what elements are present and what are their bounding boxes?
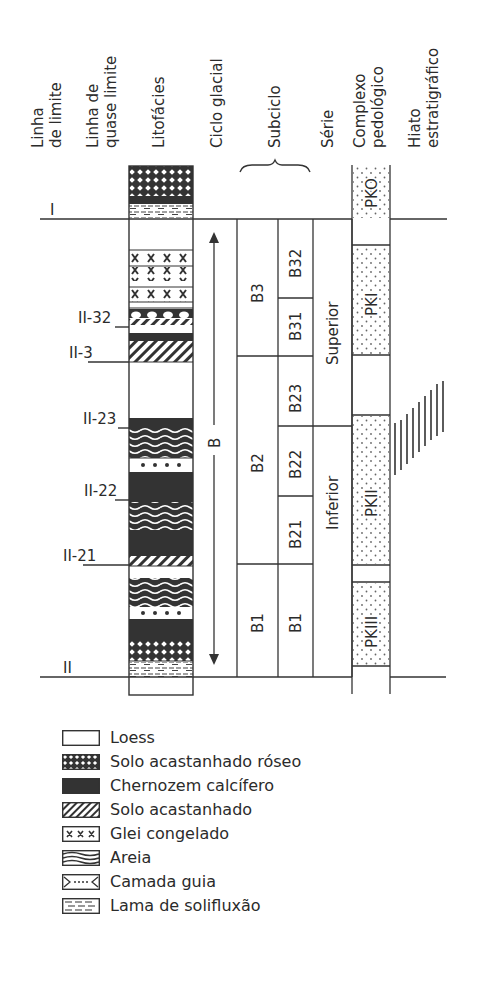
serie-superior: Superior bbox=[324, 301, 342, 365]
legend-item-sand: Areia bbox=[62, 848, 422, 868]
header-linha-quase-1: Linha de bbox=[84, 84, 102, 148]
header-serie: Série bbox=[319, 110, 337, 148]
subciclo-brace-icon bbox=[240, 160, 310, 172]
marker-bed-swatch-icon bbox=[62, 874, 100, 890]
complexo-PKO: PKO bbox=[363, 178, 381, 208]
header-linha-limite-2: de limite bbox=[47, 82, 65, 148]
boundary-label-II-3: II-3 bbox=[69, 344, 93, 362]
subciclo-B22: B22 bbox=[287, 450, 305, 479]
complexo-PKII: PKII bbox=[363, 489, 381, 517]
subciclo-B31: B31 bbox=[287, 312, 305, 341]
boundary-label-II-23: II-23 bbox=[83, 410, 116, 428]
legend-label: Chernozem calcífero bbox=[110, 776, 274, 796]
legend-label: Camada guia bbox=[110, 872, 216, 892]
legend-label: Loess bbox=[110, 728, 155, 748]
legend-label: Solo acastanhado róseo bbox=[110, 752, 301, 772]
legend-label: Glei congelado bbox=[110, 824, 229, 844]
legend-item-pink-brown-soil: Solo acastanhado róseo bbox=[62, 752, 422, 772]
subciclo-B3: B3 bbox=[249, 283, 267, 303]
ciclo-glacial-label: B bbox=[206, 438, 224, 448]
header-hiato-1: Hiato bbox=[406, 108, 424, 148]
loess-swatch-icon bbox=[62, 730, 100, 746]
boundary-labels: I II-32 II-3 II-23 II-22 II-21 II bbox=[50, 201, 117, 677]
header-ciclo-glacial: Ciclo glacial bbox=[208, 58, 226, 148]
subciclo-B32: B32 bbox=[287, 249, 305, 278]
boundary-label-I: I bbox=[50, 201, 54, 219]
header-litofacies: Litofácies bbox=[150, 76, 168, 148]
header-complexo-2: pedológico bbox=[369, 66, 387, 148]
serie-labels: Superior Inferior bbox=[324, 301, 342, 530]
x-marks-swatch-icon bbox=[62, 826, 100, 842]
legend-item-gley: Glei congelado bbox=[62, 824, 422, 844]
diagonal-hatch-swatch-icon bbox=[62, 802, 100, 818]
boundary-label-II-32: II-32 bbox=[78, 309, 111, 327]
legend-label: Areia bbox=[110, 848, 151, 868]
subciclo-B2: B2 bbox=[249, 453, 267, 473]
subciclo-B1: B1 bbox=[249, 613, 267, 633]
legend-item-chernozem: Chernozem calcífero bbox=[62, 776, 422, 796]
stratigraphic-diagram: Linha de limite Linha de quase limite Li… bbox=[0, 0, 487, 720]
header-complexo-1: Complexo bbox=[351, 73, 369, 148]
header-subciclo: Subciclo bbox=[266, 85, 284, 148]
legend-item-solifluction: Lama de solifluxão bbox=[62, 896, 422, 916]
wavy-lines-swatch-icon bbox=[62, 850, 100, 866]
legend-item-brown-soil: Solo acastanhado bbox=[62, 800, 422, 820]
legend-item-marker-bed: Camada guia bbox=[62, 872, 422, 892]
crosshatch-swatch-icon bbox=[62, 754, 100, 770]
litofacies-column bbox=[129, 166, 193, 695]
subciclo-B1-sub: B1 bbox=[287, 613, 305, 633]
hiato-hatching-icon bbox=[395, 381, 443, 475]
column-headers: Linha de limite Linha de quase limite Li… bbox=[29, 48, 442, 148]
subciclo-B23: B23 bbox=[287, 384, 305, 413]
boundary-label-II-22: II-22 bbox=[84, 482, 117, 500]
header-linha-limite-1: Linha bbox=[29, 107, 47, 148]
legend-label: Lama de solifluxão bbox=[110, 896, 261, 916]
subciclo-labels: B3 B2 B1 B32 B31 B23 B22 B21 B1 bbox=[249, 249, 305, 633]
dashed-lines-swatch-icon bbox=[62, 898, 100, 914]
header-hiato-2: estratigráfico bbox=[424, 48, 442, 148]
solid-dark-swatch-icon bbox=[62, 778, 100, 794]
complexo-PKIII: PKIII bbox=[363, 616, 381, 648]
header-linha-quase-2: quase limite bbox=[102, 56, 120, 148]
subciclo-B21: B21 bbox=[287, 520, 305, 549]
legend-label: Solo acastanhado bbox=[110, 800, 252, 820]
boundary-label-II-21: II-21 bbox=[63, 547, 96, 565]
serie-inferior: Inferior bbox=[324, 475, 342, 530]
complexo-PKI: PKI bbox=[363, 293, 381, 316]
boundary-label-II: II bbox=[63, 659, 72, 677]
legend-item-loess: Loess bbox=[62, 728, 422, 748]
